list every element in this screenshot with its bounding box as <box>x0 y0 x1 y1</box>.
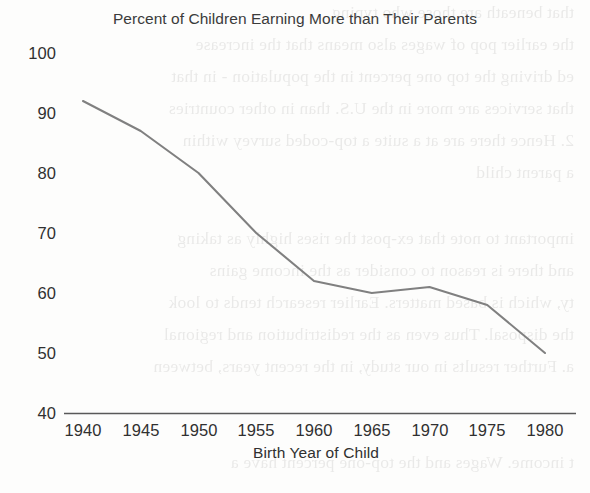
x-axis-title: Birth Year of Child <box>56 444 576 462</box>
x-tick-label: 1950 <box>167 421 231 440</box>
x-tick-label: 1970 <box>398 421 462 440</box>
plot-area <box>0 0 590 493</box>
x-tick-label: 1940 <box>51 421 115 440</box>
x-tick-label: 1945 <box>109 421 173 440</box>
line-chart: Percent of Children Earning More than Th… <box>0 0 590 493</box>
x-tick-label: 1980 <box>513 421 577 440</box>
data-series-line <box>83 101 545 353</box>
x-tick-label: 1960 <box>282 421 346 440</box>
x-tick-label: 1975 <box>455 421 519 440</box>
scanned-page: that beneath are those who typing the ea… <box>0 0 590 493</box>
x-tick-label: 1955 <box>224 421 288 440</box>
x-tick-label: 1965 <box>340 421 404 440</box>
